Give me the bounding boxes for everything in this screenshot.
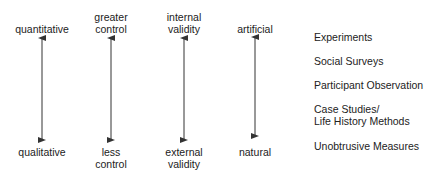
method-experiments: Experiments [314, 31, 372, 43]
label-qualitative: qualitative [18, 146, 65, 158]
label-internal-validity: internal validity [167, 11, 201, 35]
method-participant-observation: Participant Observation [314, 79, 423, 91]
method-unobtrusive-measures: Unobtrusive Measures [314, 140, 419, 152]
label-greater-control: greater control [94, 11, 127, 35]
label-artificial: artificial [237, 23, 273, 35]
label-quantitative: quantitative [15, 23, 69, 35]
label-less-control: less control [95, 146, 127, 170]
method-social-surveys: Social Surveys [314, 55, 383, 67]
method-case-studies: Case Studies/ Life History Methods [314, 103, 410, 127]
label-natural: natural [239, 146, 271, 158]
label-external-validity: external validity [165, 146, 202, 170]
